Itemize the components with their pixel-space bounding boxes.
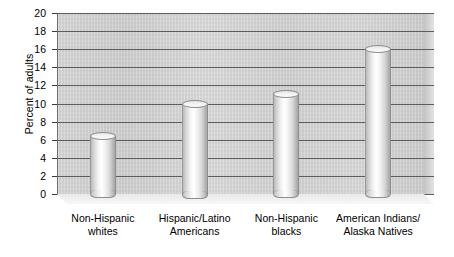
side-gridline-16 [424, 49, 434, 50]
tick-14 [52, 67, 57, 68]
y-tick-label-10: 10 [20, 99, 46, 110]
y-tick-label-8: 8 [20, 117, 46, 128]
side-gridline-18 [424, 31, 434, 32]
tick-2 [52, 176, 57, 177]
category-label: Non-Hispanicblacks [241, 212, 333, 238]
tick-8 [52, 122, 57, 123]
y-tick-label-4: 4 [20, 153, 46, 164]
category-label-line-2: Americans [149, 225, 241, 238]
side-gridline-6 [424, 140, 434, 141]
bar-body [182, 104, 208, 195]
tick-12 [52, 85, 57, 86]
y-tick-label-12: 12 [20, 80, 46, 91]
tick-16 [52, 49, 57, 50]
tick-20 [52, 13, 57, 14]
bar-cylinder [90, 132, 116, 198]
bar-body [90, 136, 116, 194]
bar-top-ellipse [365, 45, 391, 53]
bar-top-ellipse [273, 90, 299, 98]
category-label-line-1: American Indians/ [332, 212, 424, 225]
bar-body [273, 94, 299, 194]
category-label-line-1: Non-Hispanic [57, 212, 149, 225]
y-axis-title: Percent of adults [23, 19, 35, 169]
y-tick-label-16: 16 [20, 44, 46, 55]
bar-cylinder [273, 90, 299, 198]
category-label: American Indians/Alaska Natives [332, 212, 424, 238]
side-gridline-8 [424, 122, 434, 123]
y-tick-label-14: 14 [20, 62, 46, 73]
category-label: Non-Hispanicwhites [57, 212, 149, 238]
y-tick-label-18: 18 [20, 26, 46, 37]
tick-6 [52, 140, 57, 141]
bar-bottom-ellipse [182, 191, 208, 199]
category-label-line-2: whites [57, 225, 149, 238]
tick-18 [52, 31, 57, 32]
side-gridline-2 [424, 176, 434, 177]
side-gridline-20 [424, 13, 434, 14]
category-label-line-1: Hispanic/Latino [149, 212, 241, 225]
bar-cylinder [365, 45, 391, 198]
y-tick-label-6: 6 [20, 135, 46, 146]
y-tick-label-2: 2 [20, 171, 46, 182]
y-tick-label-20: 20 [20, 8, 46, 19]
tick-4 [52, 158, 57, 159]
gridline-20 [57, 13, 424, 14]
bar-cylinder [182, 100, 208, 199]
category-label-line-2: Alaska Natives [332, 225, 424, 238]
bar-bottom-ellipse [273, 190, 299, 198]
side-gridline-4 [424, 158, 434, 159]
tick-10 [52, 104, 57, 105]
gridline-18 [57, 31, 424, 32]
side-gridline-14 [424, 67, 434, 68]
category-label-line-2: blacks [241, 225, 333, 238]
bar-bottom-ellipse [90, 190, 116, 198]
side-gridline-12 [424, 85, 434, 86]
y-tick-label-0: 0 [20, 189, 46, 200]
chart-side-wall [424, 13, 434, 194]
bar-bottom-ellipse [365, 190, 391, 198]
tick-0 [52, 194, 57, 195]
bar-top-ellipse [182, 100, 208, 108]
category-label: Hispanic/LatinoAmericans [149, 212, 241, 238]
side-gridline-10 [424, 104, 434, 105]
category-label-line-1: Non-Hispanic [241, 212, 333, 225]
bar-top-ellipse [90, 132, 116, 140]
bar-body [365, 49, 391, 194]
bar-chart: Percent of adults 20181614121086420 Non-… [0, 0, 454, 257]
